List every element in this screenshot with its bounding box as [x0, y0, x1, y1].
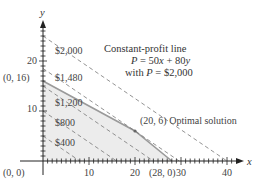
profit-label-400: $400: [55, 137, 75, 148]
x-axis-label: x: [246, 156, 252, 167]
optimal-solution-label: (20, 6) Optimal solution: [140, 115, 237, 127]
profit-label-800: $800: [55, 117, 75, 128]
profit-label-1200: $1,200: [55, 97, 83, 108]
x-tick-40: 40: [222, 167, 232, 178]
profit-label-2000: $2,000: [55, 45, 83, 56]
point-28-0-label: (28, 0): [149, 167, 176, 179]
point-0-16-label: (0, 16): [3, 72, 30, 84]
x-tick-30: 30: [176, 167, 186, 178]
linear-programming-chart: x y 10 20 30 40 10 20 (0, 0) (0, 16) (20…: [0, 0, 255, 183]
x-axis-arrow-icon: [236, 158, 244, 164]
caption-line-1: Constant-profit line: [104, 43, 187, 54]
profit-label-1480: $1,480: [55, 72, 83, 83]
x-tick-10: 10: [84, 167, 94, 178]
y-axis-label: y: [39, 7, 45, 18]
caption-line-3: with P = $2,000: [125, 67, 193, 78]
y-tick-20: 20: [27, 55, 37, 66]
origin-label: (0, 0): [3, 167, 25, 179]
optimal-point-marker: [133, 129, 136, 132]
x-tick-20: 20: [130, 167, 140, 178]
y-tick-10: 10: [27, 103, 37, 114]
y-axis-arrow-icon: [40, 20, 46, 28]
caption-line-2: P = 50x + 80y: [130, 55, 190, 66]
